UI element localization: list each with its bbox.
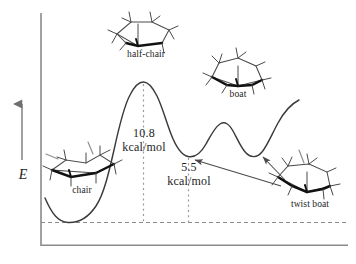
twist-boat-label: twist boat [272, 200, 348, 210]
twist-boat-conformer-structure [269, 150, 340, 199]
boat-label: boat [208, 90, 268, 100]
energy-diagram-figure: E chair half-chair boat twist boat 10.8 … [0, 0, 356, 264]
axes [41, 13, 348, 246]
barrier-energy-value: 10.8 [118, 127, 170, 140]
chair-label: chair [52, 186, 112, 196]
twist-boat-pointer-right [263, 157, 285, 180]
barrier-energy-units: kcal/mol [112, 141, 176, 154]
twist-boat-energy-units: kcal/mol [157, 175, 221, 188]
boat-conformer-structure [203, 48, 271, 94]
energy-axis-label: E [12, 168, 34, 183]
diagram-canvas [0, 0, 356, 264]
half-chair-label: half-chair [108, 50, 184, 60]
half-chair-conformer-structure [108, 12, 178, 53]
twist-boat-energy-value: 5.5 [163, 161, 215, 174]
